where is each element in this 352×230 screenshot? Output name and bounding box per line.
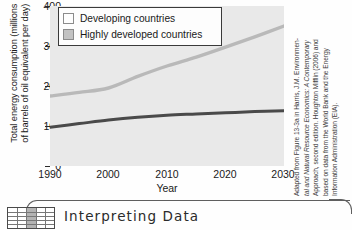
figure-credit: Adapted from Figure 13-3a in Harris, J.M… [292, 0, 344, 196]
legend-swatch-developing [63, 13, 74, 24]
legend-item-developing: Developing countries [63, 11, 217, 26]
x-tick-label-2020: 2020 [205, 169, 245, 180]
legend-swatch-highly-developed [63, 29, 74, 40]
credit-line-2: tal and Natural Resource Economics: A Co… [302, 0, 312, 196]
x-tick-label-1990: 1990 [30, 169, 70, 180]
credit-line-1: Adapted from Figure 13-3a in Harris, J.M… [292, 0, 302, 196]
credit-line-3: Approach, second edition. Houghton Miffl… [311, 0, 321, 196]
legend-label-developing: Developing countries [80, 13, 175, 24]
legend-label-highly-developed: Highly developed countries [80, 29, 202, 40]
credit-line-5: Information Administration (EIA). [330, 0, 340, 196]
x-axis-title: Year [50, 182, 284, 194]
series-line-highly-developed [50, 111, 284, 127]
table-grid-icon [7, 207, 55, 229]
y-tick-mark-0 [45, 166, 50, 167]
credit-line-4: based on data from the World Bank and th… [321, 0, 331, 196]
banner-title: Interpreting Data [64, 208, 199, 224]
figure: Total energy consumption (millions of ba… [0, 0, 349, 196]
x-tick-label-2000: 2000 [88, 169, 128, 180]
chart-legend: Developing countries Highly developed co… [58, 7, 222, 46]
interpreting-data-banner: Interpreting Data [0, 198, 349, 230]
x-tick-label-2010: 2010 [147, 169, 187, 180]
legend-item-highly-developed: Highly developed countries [63, 27, 217, 42]
